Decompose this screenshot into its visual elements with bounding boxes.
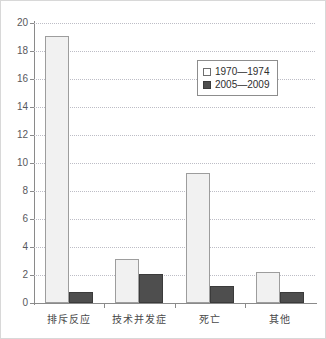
gridline — [34, 23, 315, 24]
category-label: 其他 — [269, 311, 291, 326]
legend-item-series-1: 1970—1974 — [203, 65, 270, 78]
category-label: 排斥反应 — [47, 311, 91, 326]
y-tick-mark — [30, 247, 34, 248]
bar-chart-figure: 02468101214161820 排斥反应技术并发症死亡其他 1970—197… — [0, 0, 326, 339]
bar-series-1 — [115, 259, 139, 303]
legend-item-series-2: 2005—2009 — [203, 78, 270, 91]
y-tick-label: 20 — [17, 18, 28, 28]
bar-series-1 — [45, 36, 69, 303]
category-label: 死亡 — [199, 311, 221, 326]
y-tick-label: 8 — [22, 186, 28, 196]
bar-series-2 — [69, 292, 93, 303]
bar-series-2 — [139, 274, 163, 303]
bar-series-2 — [280, 292, 304, 303]
bar-series-1 — [186, 173, 210, 303]
y-tick-mark — [30, 23, 34, 24]
y-tick-label: 0 — [22, 298, 28, 308]
gridline — [34, 135, 315, 136]
y-tick-mark — [30, 191, 34, 192]
y-tick-label: 14 — [17, 102, 28, 112]
dark-swatch-icon — [203, 81, 211, 89]
gridline — [34, 163, 315, 164]
y-tick-label: 4 — [22, 242, 28, 252]
bar-series-1 — [256, 272, 280, 303]
category-label: 技术并发症 — [112, 311, 167, 326]
x-tick-mark — [245, 304, 246, 308]
gridline — [34, 219, 315, 220]
light-swatch-icon — [203, 68, 211, 76]
y-tick-mark — [30, 135, 34, 136]
y-tick-mark — [30, 79, 34, 80]
gridline — [34, 247, 315, 248]
y-tick-label: 2 — [22, 270, 28, 280]
legend-label-series-2: 2005—2009 — [215, 80, 270, 90]
gridline — [34, 191, 315, 192]
gridline — [34, 107, 315, 108]
y-tick-label: 16 — [17, 74, 28, 84]
y-tick-label: 18 — [17, 46, 28, 56]
y-tick-label: 10 — [17, 158, 28, 168]
legend-label-series-1: 1970—1974 — [215, 67, 270, 77]
gridline — [34, 51, 315, 52]
y-tick-mark — [30, 163, 34, 164]
y-tick-mark — [30, 107, 34, 108]
bar-series-2 — [210, 286, 234, 304]
chart-legend: 1970—1974 2005—2009 — [197, 60, 278, 96]
x-tick-mark — [104, 304, 105, 308]
y-tick-mark — [30, 303, 34, 304]
y-tick-label: 6 — [22, 214, 28, 224]
y-tick-mark — [30, 51, 34, 52]
x-tick-mark — [175, 304, 176, 308]
y-tick-label: 12 — [17, 130, 28, 140]
y-tick-mark — [30, 219, 34, 220]
y-tick-mark — [30, 275, 34, 276]
